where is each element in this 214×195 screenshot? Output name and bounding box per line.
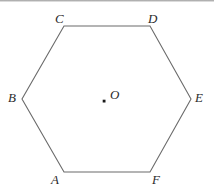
vertex-label-b: B (8, 91, 16, 104)
vertex-label-f: F (152, 173, 160, 186)
hexagon-outline (22, 26, 191, 172)
vertex-label-d: D (148, 12, 157, 25)
hexagon-drawing (0, 0, 214, 195)
vertex-label-c: C (55, 12, 64, 25)
center-point-dot (103, 100, 106, 103)
vertex-label-a: A (51, 173, 59, 186)
vertex-label-e: E (195, 91, 203, 104)
center-label-o: O (110, 88, 119, 101)
hexagon-figure: C D E F A B O (0, 0, 214, 195)
